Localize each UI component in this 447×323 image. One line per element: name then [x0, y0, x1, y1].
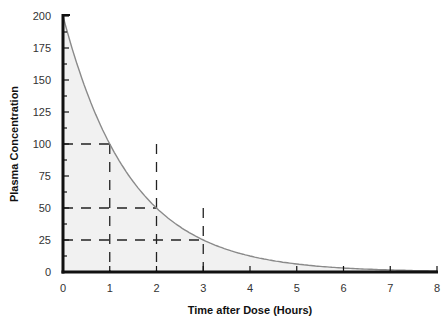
y-tick-label: 100 — [33, 138, 51, 150]
y-tick-label: 200 — [33, 10, 51, 22]
y-tick-label: 0 — [45, 266, 51, 278]
x-tick-label: 3 — [200, 282, 206, 294]
half-life-chart: 0255075100125150175200 012345678 Time af… — [0, 0, 447, 323]
x-tick-label: 7 — [387, 282, 393, 294]
y-tick-label: 125 — [33, 106, 51, 118]
y-tick-label: 150 — [33, 74, 51, 86]
x-tick-label: 0 — [60, 282, 66, 294]
x-axis-title: Time after Dose (Hours) — [188, 304, 313, 316]
y-tick-label: 50 — [39, 202, 51, 214]
x-tick-label: 5 — [294, 282, 300, 294]
x-tick-label: 2 — [153, 282, 159, 294]
x-tick-label: 8 — [434, 282, 440, 294]
y-tick-label: 25 — [39, 234, 51, 246]
area-under-curve — [63, 16, 437, 272]
y-axis-title: Plasma Concentration — [8, 86, 20, 202]
y-tick-label: 175 — [33, 42, 51, 54]
x-tick-label: 4 — [247, 282, 253, 294]
y-tick-label: 75 — [39, 170, 51, 182]
area-fill — [63, 16, 437, 272]
x-tick-label: 6 — [340, 282, 346, 294]
x-tick-label: 1 — [107, 282, 113, 294]
